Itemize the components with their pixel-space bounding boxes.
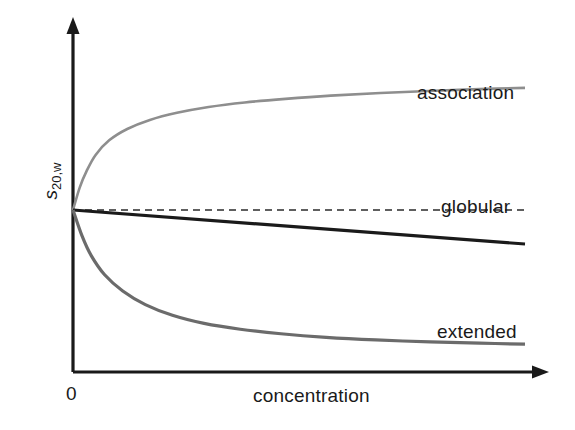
curve-label-globular: globular bbox=[441, 196, 510, 218]
x-axis-arrowhead-icon bbox=[532, 366, 549, 379]
curve-label-extended: extended bbox=[437, 321, 517, 343]
x-axis-title: concentration bbox=[253, 385, 370, 407]
x-axis bbox=[73, 366, 549, 379]
curve-label-association: association bbox=[417, 82, 514, 104]
sedimentation-coefficient-chart: s20,w concentration 0 association globul… bbox=[0, 0, 575, 430]
y-axis-symbol: s bbox=[40, 190, 61, 200]
x-axis-origin-tick-label: 0 bbox=[66, 383, 77, 405]
y-axis-subscript: 20,w bbox=[49, 163, 64, 190]
y-axis-arrowhead-icon bbox=[67, 17, 80, 34]
series-line-association bbox=[73, 88, 525, 210]
y-axis-title: s20,w bbox=[40, 146, 66, 216]
